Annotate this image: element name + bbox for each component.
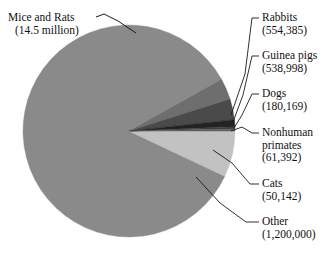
pie-chart-figure: Mice and Rats (14.5 million) Rabbits (55… (0, 0, 331, 258)
label-guinea-pigs-name: Guinea pigs (262, 49, 317, 61)
label-other: Other (1,200,000) (262, 215, 316, 240)
label-dogs-value: (180,169) (262, 100, 307, 113)
label-rabbits-name: Rabbits (262, 11, 297, 23)
label-nonhuman-primates-value: (61,392) (262, 151, 313, 164)
label-guinea-pigs: Guinea pigs (538,998) (262, 49, 317, 74)
label-cats-name: Cats (262, 177, 282, 189)
label-other-value: (1,200,000) (262, 228, 316, 241)
leader-line-rabbits (231, 18, 259, 115)
label-dogs: Dogs (180,169) (262, 87, 307, 112)
label-cats: Cats (50,142) (262, 177, 301, 202)
label-dogs-name: Dogs (262, 87, 286, 99)
leader-line-dogs (234, 94, 259, 128)
label-nonhuman-primates: Nonhuman primates (61,392) (262, 126, 313, 164)
label-rabbits-value: (554,385) (262, 24, 307, 37)
label-guinea-pigs-value: (538,998) (262, 62, 317, 75)
label-rabbits: Rabbits (554,385) (262, 11, 307, 36)
label-mice-and-rats-value: (14.5 million) (8, 24, 79, 37)
label-cats-value: (50,142) (262, 190, 301, 203)
label-nonhuman-primates-line2: primates (262, 139, 313, 152)
label-mice-and-rats-name: Mice and Rats (8, 11, 74, 23)
label-mice-and-rats: Mice and Rats (14.5 million) (8, 11, 79, 36)
label-nonhuman-primates-line1: Nonhuman (262, 126, 313, 138)
label-other-name: Other (262, 215, 288, 227)
